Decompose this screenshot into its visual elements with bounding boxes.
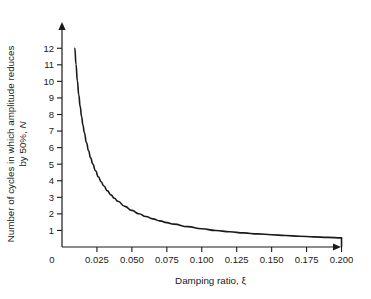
- x-tick-label: 0.050: [120, 254, 144, 265]
- y-tick-label: 11: [44, 59, 54, 70]
- y-tick-label: 1: [49, 225, 54, 236]
- y-tick-label: 8: [49, 109, 54, 120]
- chart-figure: 0.0250.0500.0750.1000.1250.1500.1750.200…: [0, 0, 371, 299]
- x-tick-label: 0.075: [155, 254, 179, 265]
- y-axis-title-line1: Number of cycles in which amplitude redu…: [5, 46, 16, 243]
- x-axis-title: Damping ratio, ξ: [175, 275, 246, 286]
- damping-ratio-chart: 0.0250.0500.0750.1000.1250.1500.1750.200…: [0, 0, 371, 299]
- y-axis-title-line2-prefix: by 50%,: [17, 128, 28, 166]
- x-tick-label: 0.175: [295, 254, 319, 265]
- x-tick-label: 0.100: [190, 254, 214, 265]
- x-tick-label: 0.125: [225, 254, 249, 265]
- y-axis-title-line2: by 50%, N: [17, 120, 28, 166]
- x-tick-label: 0.025: [85, 254, 109, 265]
- y-tick-label: 4: [49, 175, 54, 186]
- y-tick-label: 9: [49, 92, 54, 103]
- x-tick-label: 0.150: [260, 254, 284, 265]
- origin-tick-label: 0: [49, 254, 54, 265]
- y-tick-label: 3: [49, 192, 54, 203]
- y-tick-label: 2: [49, 208, 54, 219]
- y-tick-label: 10: [43, 76, 54, 87]
- y-tick-label: 7: [49, 125, 54, 136]
- y-axis-title-line2-symbol: N: [17, 120, 28, 128]
- y-tick-label: 12: [43, 43, 54, 54]
- y-tick-label: 6: [49, 142, 54, 153]
- y-tick-label: 5: [49, 159, 54, 170]
- x-tick-label: 0.200: [330, 254, 354, 265]
